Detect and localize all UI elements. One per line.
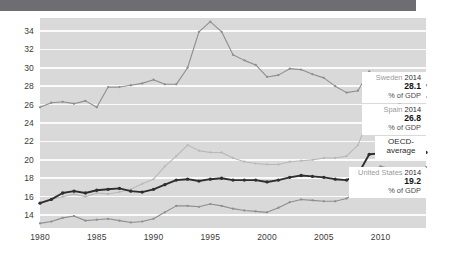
datapoint-oecd-average-2006 (334, 178, 337, 181)
datapoint-sweden-2006 (334, 85, 336, 87)
datapoint-oecd-average-1988 (129, 190, 132, 193)
x-tick-2005: 2005 (314, 232, 334, 242)
datapoint-oecd-average-2002 (288, 176, 291, 179)
datapoint-oecd-average-1981 (50, 198, 53, 201)
datapoint-sweden-1988 (130, 84, 132, 86)
datapoint-oecd-average-1985 (95, 189, 98, 192)
datapoint-oecd-average-1982 (61, 191, 64, 194)
datapoint-sweden-1998 (243, 59, 245, 61)
datapoint-oecd-average-1987 (118, 187, 121, 190)
datapoint-spain-1986 (107, 193, 109, 195)
datapoint-sweden-1995 (209, 21, 211, 23)
datapoint-spain-2001 (277, 163, 279, 165)
datapoint-united-states-1999 (255, 210, 257, 212)
datapoint-sweden-1997 (232, 54, 234, 56)
datapoint-oecd-average-1999 (254, 178, 257, 181)
datapoint-spain-2003 (300, 160, 302, 162)
datapoint-united-states-1998 (243, 209, 245, 211)
datapoint-united-states-1984 (84, 219, 86, 221)
y-tick-28: 28 (24, 81, 34, 91)
datapoint-oecd-average-1995 (209, 178, 212, 181)
y-tick-22: 22 (24, 136, 34, 146)
datapoint-sweden-1999 (255, 64, 257, 66)
datapoint-spain-1991 (164, 165, 166, 167)
datapoint-oecd-average-2004 (311, 175, 314, 178)
datapoint-oecd-average-1993 (186, 178, 189, 181)
y-tick-26: 26 (24, 100, 34, 110)
y-tick-16: 16 (24, 192, 34, 202)
datapoint-sweden-1996 (221, 31, 223, 33)
datapoint-spain-1985 (96, 192, 98, 194)
datapoint-united-states-1989 (141, 220, 143, 222)
datapoint-spain-1996 (221, 151, 223, 153)
datapoint-oecd-average-1991 (163, 183, 166, 186)
datapoint-united-states-1992 (175, 205, 177, 207)
datapoint-oecd-average-1998 (243, 178, 246, 181)
datapoint-spain-2004 (311, 159, 313, 161)
datapoint-sweden-1987 (118, 86, 120, 88)
y-axis-tick-labels: 1416182022242628303234 (0, 18, 40, 228)
datapoint-oecd-average-1996 (220, 177, 223, 180)
datapoint-spain-2007 (345, 155, 347, 157)
x-tick-1990: 1990 (144, 232, 164, 242)
datapoint-sweden-1980 (39, 106, 41, 108)
datapoint-sweden-1986 (107, 86, 109, 88)
datapoint-spain-2008 (357, 144, 359, 146)
y-tick-34: 34 (24, 26, 34, 36)
datapoint-sweden-2003 (300, 68, 302, 70)
datapoint-sweden-2002 (289, 68, 291, 70)
x-tick-1995: 1995 (200, 232, 220, 242)
datapoint-sweden-1985 (96, 106, 98, 108)
datapoint-sweden-2005 (323, 77, 325, 79)
callout-us-unit: % of GDP (355, 187, 421, 195)
datapoint-sweden-1990 (152, 79, 154, 81)
callout-sweden: Sweden 2014 28.1 % of GDP (362, 72, 426, 103)
datapoint-oecd-average-1994 (197, 179, 200, 182)
datapoint-sweden-1981 (50, 102, 52, 104)
datapoint-oecd-average-2000 (265, 180, 268, 183)
datapoint-united-states-2007 (345, 197, 347, 199)
datapoint-oecd-average-2003 (299, 174, 302, 177)
x-tick-2000: 2000 (257, 232, 277, 242)
x-tick-2010: 2010 (371, 232, 391, 242)
datapoint-united-states-2005 (323, 200, 325, 202)
top-banner-gap (416, 0, 450, 11)
datapoint-oecd-average-1997 (231, 178, 234, 181)
datapoint-united-states-1993 (186, 205, 188, 207)
y-tick-20: 20 (24, 155, 34, 165)
datapoint-united-states-1986 (107, 218, 109, 220)
datapoint-oecd-average-1980 (38, 201, 41, 204)
callout-spain: Spain 2014 26.8 % of GDP (362, 104, 426, 135)
datapoint-sweden-2001 (277, 74, 279, 76)
datapoint-spain-1998 (243, 161, 245, 163)
datapoint-oecd-average-2005 (322, 176, 325, 179)
datapoint-united-states-2001 (277, 207, 279, 209)
datapoint-united-states-1994 (198, 206, 200, 208)
datapoint-united-states-1996 (221, 205, 223, 207)
datapoint-spain-1983 (73, 193, 75, 195)
datapoint-united-states-1980 (39, 222, 41, 224)
datapoint-united-states-1983 (73, 215, 75, 217)
datapoint-united-states-1982 (62, 217, 64, 219)
callout-sweden-unit: % of GDP (368, 92, 421, 100)
datapoint-spain-1987 (118, 191, 120, 193)
y-tick-14: 14 (24, 210, 34, 220)
datapoint-united-states-2004 (311, 199, 313, 201)
datapoint-oecd-average-1989 (141, 190, 144, 193)
callout-spain-unit: % of GDP (368, 124, 421, 132)
datapoint-oecd-average-1984 (84, 191, 87, 194)
datapoint-united-states-1990 (152, 218, 154, 220)
datapoint-sweden-1994 (198, 31, 200, 33)
datapoint-spain-1993 (186, 144, 188, 146)
datapoint-sweden-2004 (311, 73, 313, 75)
datapoint-united-states-1987 (118, 219, 120, 221)
datapoint-oecd-average-2001 (277, 178, 280, 181)
datapoint-sweden-2007 (345, 91, 347, 93)
callout-oecd-average: OECD- average (375, 136, 426, 159)
datapoint-sweden-2008 (357, 90, 359, 92)
datapoint-spain-1995 (209, 151, 211, 153)
datapoint-united-states-1997 (232, 208, 234, 210)
datapoint-sweden-1992 (175, 83, 177, 85)
chart-screenshot: 1416182022242628303234 19801985199019952… (0, 0, 450, 260)
datapoint-spain-1997 (232, 157, 234, 159)
